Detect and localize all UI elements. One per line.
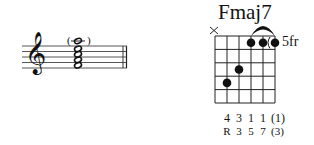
optional-dot-parens [268,37,270,48]
dot-string3-fret1 [247,38,256,47]
frets [215,36,275,103]
finger-string5: 4 [221,112,233,125]
fret-position-label: 5fr [282,35,298,49]
dot-string1-fret1 [271,38,280,47]
finger-string4: 3 [233,112,245,125]
tone-string4: 3 [233,125,245,137]
finger-string1: (1) [271,112,283,125]
finger-string2: 1 [257,112,269,125]
dot-string2-fret1 [259,38,268,47]
tone-string3: 5 [245,125,257,137]
muted-string-icon [210,27,218,34]
tone-string1: (3) [271,125,283,137]
tone-string2: 7 [257,125,269,137]
strings [215,36,275,103]
barre-arc-icon [251,26,275,36]
dot-string4-fret3 [235,65,244,74]
finger-string3: 1 [245,112,257,125]
dot-string5-fret4 [223,79,232,88]
tone-string5: R [221,125,233,137]
